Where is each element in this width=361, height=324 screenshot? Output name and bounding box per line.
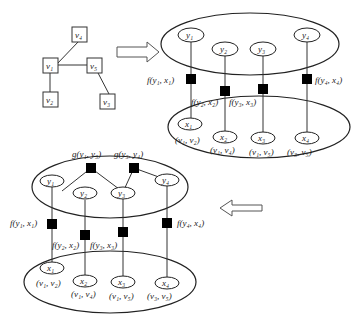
factor-f1 bbox=[186, 74, 196, 84]
node-v4-label: v₄ bbox=[75, 30, 82, 40]
factor-f1-bottom bbox=[47, 219, 57, 229]
x4-label-bottom: x₄ bbox=[161, 278, 169, 288]
x4-label: x₄ bbox=[301, 133, 309, 143]
y3-label-bottom: y₃ bbox=[117, 188, 125, 198]
factor-f3 bbox=[258, 84, 268, 94]
y4-label-bottom: y₄ bbox=[161, 175, 169, 185]
factor-g13-label: g(y₁, y₃) bbox=[72, 149, 101, 159]
factor-g34-label: g(y₃, y₄) bbox=[114, 149, 143, 159]
x2-edge-label-bottom: (v₁, v₄) bbox=[71, 289, 96, 299]
factor-f2-bottom bbox=[80, 230, 90, 240]
factor-f4-bottom bbox=[162, 218, 172, 228]
y2-label: y₂ bbox=[219, 44, 227, 54]
y4-label: y₄ bbox=[301, 30, 309, 40]
factor-graph-diagram: v₄ v₁ v₅ v₂ v₃ y₁ y₂ y₃ y₄ f(y₁, x bbox=[0, 0, 361, 324]
left-arrow-icon bbox=[220, 200, 262, 216]
factor-f4-label: f(y₄, x₄) bbox=[315, 75, 342, 85]
input-graph: v₄ v₁ v₅ v₂ v₃ bbox=[43, 27, 115, 109]
node-v2-label: v₂ bbox=[46, 95, 53, 105]
factor-f4 bbox=[302, 74, 312, 84]
y3-label: y₃ bbox=[257, 44, 265, 54]
x3-edge-label-bottom: (v₁, v₅) bbox=[109, 291, 134, 301]
x4-edge-label: (v₃, v₅) bbox=[287, 147, 312, 157]
factor-g34 bbox=[129, 163, 139, 173]
x2-label: x₂ bbox=[219, 132, 227, 142]
factor-f4-bottom-label: f(y₄, x₄) bbox=[177, 218, 204, 228]
factor-f1-bottom-label: f(y₁, x₁) bbox=[10, 218, 37, 228]
factor-f2-bottom-label: f(y₂, x₂) bbox=[52, 240, 79, 250]
y1-label-bottom: y₁ bbox=[46, 176, 54, 186]
factor-g13 bbox=[86, 163, 96, 173]
x3-label-bottom: x₃ bbox=[117, 277, 125, 287]
factor-f2-label: f(y₂, x₂) bbox=[191, 97, 218, 107]
x3-edge-label: (v₁, v₅) bbox=[249, 147, 274, 157]
factor-f1-label: f(y₁, x₁) bbox=[147, 75, 174, 85]
y2-label-bottom: y₂ bbox=[79, 188, 87, 198]
x1-edge-label-bottom: (v₁, v₂) bbox=[36, 278, 61, 288]
x2-edge-label: (v₁, v₄) bbox=[210, 145, 235, 155]
x2-label-bottom: x₂ bbox=[79, 276, 87, 286]
factor-f3-label: f(y₃, x₃) bbox=[229, 97, 256, 107]
right-arrow-icon bbox=[117, 42, 159, 62]
factor-f3-bottom bbox=[118, 227, 128, 237]
node-v3-label: v₃ bbox=[103, 97, 110, 107]
factor-f3-bottom-label: f(y₃, x₃) bbox=[90, 240, 117, 250]
x1-label-bottom: x₁ bbox=[46, 263, 54, 273]
x1-edge-label: (v₁, v₂) bbox=[175, 135, 200, 145]
model-bottom: g(y₁, y₃) g(y₃, y₄) y₁ y₂ y₃ y₄ f(y₁, x₁… bbox=[10, 149, 204, 313]
y1-label: y₁ bbox=[185, 30, 193, 40]
y-layer-ellipse bbox=[161, 13, 339, 75]
node-v5-label: v₅ bbox=[90, 61, 97, 71]
x4-edge-label-bottom: (v₃, v₅) bbox=[147, 291, 172, 301]
x1-label: x₁ bbox=[184, 119, 192, 129]
x3-label: x₃ bbox=[257, 133, 265, 143]
node-v1-label: v₁ bbox=[46, 61, 53, 71]
factor-f2 bbox=[220, 86, 230, 96]
model-top: y₁ y₂ y₃ y₄ f(y₁, x₁) f(y₂, x₂) f(y₃, x₃… bbox=[147, 13, 350, 158]
